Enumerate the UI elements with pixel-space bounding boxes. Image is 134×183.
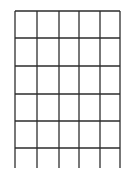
grid-diagram (0, 0, 134, 183)
vertical-grid-lines (15, 11, 120, 168)
horizontal-grid-lines (15, 11, 120, 148)
